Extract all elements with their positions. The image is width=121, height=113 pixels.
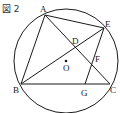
center-dot <box>65 60 68 63</box>
label-g: G <box>81 88 88 98</box>
label-a: A <box>40 4 47 14</box>
geometry-figure: 図 2 A E D F O B G C <box>0 0 121 113</box>
label-o: O <box>63 63 70 73</box>
label-d: D <box>72 36 79 46</box>
label-e: E <box>105 19 111 29</box>
label-c: C <box>110 85 116 95</box>
segment-be <box>21 28 104 84</box>
label-f: F <box>95 54 100 64</box>
segment-ac <box>45 15 110 84</box>
segments <box>21 15 110 84</box>
figure-title: 図 2 <box>2 4 20 14</box>
segment-ae <box>45 15 104 28</box>
label-b: B <box>13 85 19 95</box>
segment-ab <box>21 15 45 84</box>
